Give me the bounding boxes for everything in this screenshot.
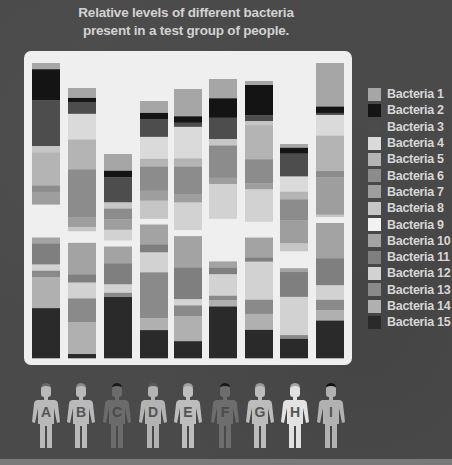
bar-B [68,88,96,358]
segment-E-bacteria-5 [174,158,202,167]
legend-label: Bacteria 7 [387,185,444,199]
people-row: ABCDEFGHI [0,382,452,452]
segment-G-bacteria-2 [245,85,273,115]
segment-H-bacteria-2 [280,148,308,154]
segment-F-bacteria-7 [209,178,237,185]
bar-G [245,81,273,358]
person-letter: D [138,404,168,420]
segment-E-bacteria-11 [174,268,202,300]
person-I: I [316,382,346,452]
bar-H [280,144,308,358]
segment-E-bacteria-3 [174,123,202,128]
segment-I-bacteria-13 [316,300,344,311]
segment-F-bacteria-2 [209,98,237,118]
bar-E [174,89,202,358]
segment-F-bacteria-12 [209,184,237,219]
person-E: E [173,382,203,452]
segment-D-bacteria-11 [140,244,168,252]
segment-D-bacteria-1 [140,101,168,113]
segment-H-bacteria-6 [280,199,308,220]
segment-I-bacteria-10 [316,223,344,259]
segment-G-bacteria-5 [245,125,273,159]
segment-D-bacteria-14 [140,318,168,330]
legend-label: Bacteria 2 [387,103,444,117]
person-letter: A [31,404,61,420]
segment-G-bacteria-13 [245,300,273,314]
segment-H-bacteria-4 [280,176,308,192]
segment-G-bacteria-8 [245,121,273,125]
legend-item: Bacteria 11 [368,249,450,265]
segment-B-bacteria-13 [68,298,96,322]
segment-E-bacteria-2 [174,116,202,123]
segment-I-bacteria-5 [316,136,344,172]
segment-I-bacteria-12 [316,285,344,300]
segment-I-bacteria-15 [316,321,344,359]
legend-swatch [368,300,381,313]
legend-swatch [368,251,381,264]
legend-swatch [368,104,381,117]
legend-label: Bacteria 14 [387,299,450,313]
legend-label: Bacteria 5 [387,152,444,166]
legend-label: Bacteria 1 [387,87,444,101]
bar-I [316,63,344,358]
segment-D-bacteria-10 [140,225,168,245]
bar-C [104,154,132,358]
legend-swatch [368,137,381,150]
segment-G-bacteria-11 [245,258,273,262]
legend-swatch [368,120,381,133]
person-letter: F [210,404,240,420]
segment-H-bacteria-11 [280,272,308,297]
segment-B-bacteria-14 [68,322,96,354]
legend-swatch [368,234,381,247]
segment-I-bacteria-3 [316,113,344,115]
legend-swatch [368,185,381,198]
segment-G-bacteria-3 [245,115,273,121]
segment-C-bacteria-1 [104,154,132,171]
segment-D-bacteria-2 [140,113,168,119]
segment-H-bacteria-5 [280,192,308,200]
segment-A-bacteria-8 [32,146,60,153]
legend-item: Bacteria 4 [368,135,450,151]
segment-F-bacteria-15 [209,306,237,358]
segment-B-bacteria-4 [68,114,96,140]
legend-item: Bacteria 8 [368,200,450,216]
segment-G-bacteria-10 [245,238,273,258]
segment-B-bacteria-12 [68,283,96,299]
person-letter: C [102,404,132,420]
segment-I-bacteria-11 [316,258,344,285]
person-D: D [138,382,168,452]
segment-B-bacteria-2 [68,98,96,102]
segment-E-bacteria-12 [174,202,202,230]
segment-I-bacteria-6 [316,171,344,178]
segment-C-bacteria-3 [104,177,132,203]
segment-A-bacteria-12 [32,265,60,272]
segment-B-bacteria-5 [68,140,96,170]
segment-F-bacteria-14 [209,300,237,307]
segment-F-bacteria-11 [209,268,237,275]
segment-B-bacteria-1 [68,88,96,98]
segment-E-bacteria-6 [174,167,202,195]
segment-B-bacteria-8 [68,227,96,231]
segment-A-bacteria-6 [32,186,60,193]
bottom-strip [0,459,452,465]
legend-item: Bacteria 14 [368,298,450,314]
legend-swatch [368,202,381,215]
person-letter: E [173,404,203,420]
bar-F [209,79,237,358]
segment-F-bacteria-6 [209,146,237,178]
segment-C-bacteria-12 [104,230,132,241]
legend-label: Bacteria 9 [387,218,444,232]
chart-panel [24,51,352,365]
person-F: F [210,382,240,452]
legend-item: Bacteria 5 [368,151,450,167]
segment-D-bacteria-4 [140,137,168,159]
person-B: B [66,382,96,452]
legend-item: Bacteria 12 [368,265,450,281]
segment-H-bacteria-1 [280,144,308,148]
segment-F-bacteria-1 [209,79,237,99]
legend-label: Bacteria 11 [387,250,450,264]
segment-E-bacteria-1 [174,89,202,117]
segment-D-bacteria-12 [140,252,168,272]
legend-item: Bacteria 10 [368,233,450,249]
segment-E-bacteria-14 [174,316,202,342]
